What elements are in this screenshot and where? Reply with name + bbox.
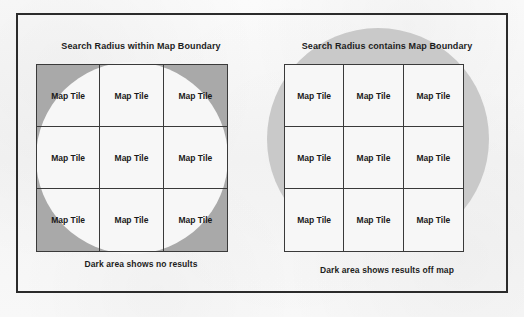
panel-left-caption: Dark area shows no results [18,259,264,269]
map-tile[interactable]: Map Tile [100,65,163,127]
map-tile-label: Map Tile [51,153,85,163]
map-tile[interactable]: Map Tile [344,65,403,127]
map-tile[interactable]: Map Tile [344,189,403,251]
map-tile[interactable]: Map Tile [164,189,227,251]
map-tile[interactable]: Map Tile [404,127,463,189]
map-tile-label: Map Tile [115,153,149,163]
map-tile-label: Map Tile [51,215,85,225]
map-tile[interactable]: Map Tile [404,65,463,127]
map-tile-label: Map Tile [115,215,149,225]
panel-search-radius-within-map-boundary: Search Radius within Map Boundary Map Ti… [18,15,264,295]
map-tile-label: Map Tile [357,215,391,225]
map-tile[interactable]: Map Tile [164,127,227,189]
panel-left-title: Search Radius within Map Boundary [18,41,264,51]
map-tile-label: Map Tile [178,91,212,101]
left-diagram: Map Tile Map Tile Map Tile Map Tile Map … [36,64,228,252]
map-tile[interactable]: Map Tile [100,127,163,189]
map-tile-label: Map Tile [178,215,212,225]
map-tile[interactable]: Map Tile [100,189,163,251]
map-tile[interactable]: Map Tile [37,65,100,127]
panel-search-radius-contains-map-boundary: Map Tile Map Tile Map Tile Map Tile Map … [264,15,510,295]
map-tile-label: Map Tile [416,153,450,163]
map-tile[interactable]: Map Tile [285,127,344,189]
figure-frame: Search Radius within Map Boundary Map Ti… [16,13,508,293]
map-tile[interactable]: Map Tile [344,127,403,189]
map-tile-label: Map Tile [416,91,450,101]
map-tile[interactable]: Map Tile [404,189,463,251]
right-diagram: Map Tile Map Tile Map Tile Map Tile Map … [264,15,510,295]
map-tile-label: Map Tile [357,91,391,101]
panel-right-caption: Dark area shows results off map [264,265,510,275]
map-tile-label: Map Tile [297,91,331,101]
map-tile-label: Map Tile [297,215,331,225]
map-tile[interactable]: Map Tile [37,127,100,189]
map-tile-label: Map Tile [297,153,331,163]
map-tile[interactable]: Map Tile [285,189,344,251]
map-tile-label: Map Tile [178,153,212,163]
map-tile[interactable]: Map Tile [285,65,344,127]
map-tile-label: Map Tile [51,91,85,101]
right-map-tile-grid: Map Tile Map Tile Map Tile Map Tile Map … [284,64,464,252]
panel-right-title: Search Radius contains Map Boundary [264,41,510,51]
map-tile-label: Map Tile [115,91,149,101]
map-tile[interactable]: Map Tile [37,189,100,251]
map-tile[interactable]: Map Tile [164,65,227,127]
map-tile-label: Map Tile [357,153,391,163]
left-map-tile-grid: Map Tile Map Tile Map Tile Map Tile Map … [36,64,228,252]
map-tile-label: Map Tile [416,215,450,225]
